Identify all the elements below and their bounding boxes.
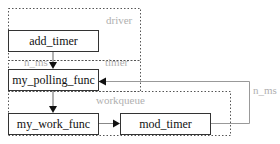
arrowhead-down-icon bbox=[49, 106, 57, 113]
edge-label-n-ms-down: n_ms bbox=[24, 56, 48, 68]
node-my-work-func: my_work_func bbox=[8, 113, 99, 135]
region-label-timer: timer bbox=[105, 56, 128, 68]
node-add-timer: add_timer bbox=[8, 30, 99, 52]
node-label: mod_timer bbox=[139, 117, 192, 132]
node-mod-timer: mod_timer bbox=[120, 113, 211, 135]
arrowhead-left-icon bbox=[99, 78, 107, 86]
node-my-polling-func: my_polling_func bbox=[8, 69, 99, 91]
node-label: my_work_func bbox=[17, 117, 90, 132]
region-label-driver: driver bbox=[106, 14, 132, 26]
region-label-workqueue: workqueue bbox=[96, 94, 145, 106]
arrowhead-down-icon bbox=[49, 62, 57, 69]
node-label: my_polling_func bbox=[12, 73, 95, 88]
node-label: add_timer bbox=[29, 34, 78, 49]
edge-label-n-ms-loop: n_ms bbox=[253, 84, 277, 96]
arrowhead-right-icon bbox=[113, 120, 120, 128]
